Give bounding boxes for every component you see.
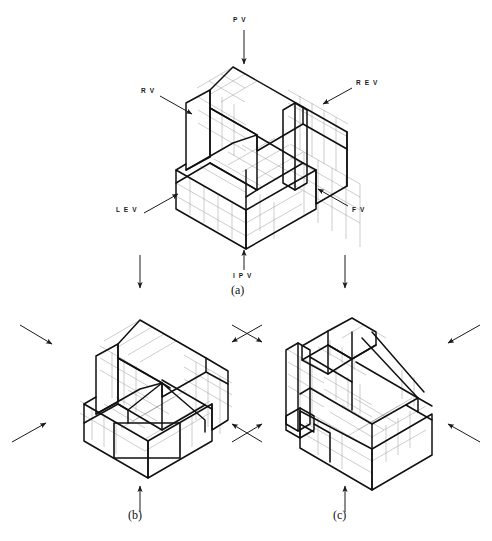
label-fv: F V xyxy=(352,206,365,213)
arrow-lev xyxy=(144,194,178,213)
technical-drawing-canvas xyxy=(0,0,492,541)
caption-c: (c) xyxy=(333,508,346,523)
label-rv: R V xyxy=(141,87,155,94)
panel-c-arrows xyxy=(232,325,480,512)
arrow-fv xyxy=(318,189,348,206)
arrow-b-lower-left xyxy=(12,423,46,442)
figure-sheet: P V R V R E V L E V F V I P V (a) (b) (c… xyxy=(0,0,492,541)
arrow-c-upper-right xyxy=(448,325,480,343)
label-ipv: I P V xyxy=(233,272,252,279)
panel-a-arrows xyxy=(144,30,352,270)
figure-c-grid-lines xyxy=(288,318,426,473)
panel-a-figure xyxy=(176,67,360,249)
panel-b-figure xyxy=(80,320,232,478)
figure-c-outline xyxy=(286,318,432,490)
figure-a-outline xyxy=(176,67,347,249)
arrow-rev xyxy=(323,88,352,104)
label-rev: R E V xyxy=(356,79,378,86)
label-lev: L E V xyxy=(116,206,138,213)
panel-c-figure xyxy=(286,318,432,490)
caption-b: (b) xyxy=(128,508,142,523)
figure-b-outline xyxy=(84,320,228,478)
label-pv: P V xyxy=(233,16,247,23)
caption-a: (a) xyxy=(231,283,244,298)
arrow-rv xyxy=(160,96,192,114)
arrow-b-upper-left xyxy=(20,325,52,344)
arrow-c-lower-right xyxy=(448,424,480,442)
